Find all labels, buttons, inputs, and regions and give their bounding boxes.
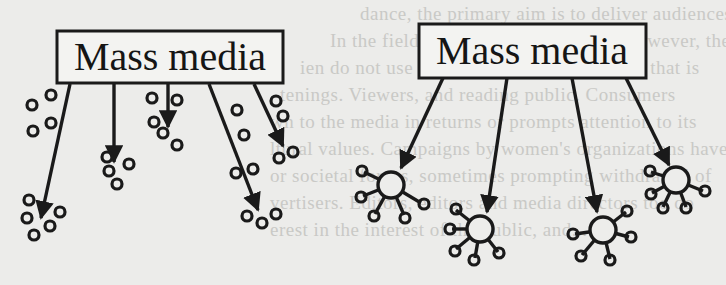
individual-circle [172,140,182,150]
individual-circle [271,96,281,106]
network-hub [445,204,504,265]
arrow [487,78,507,212]
individual-circle [112,179,122,189]
network-node [450,246,460,256]
network-node [681,203,691,213]
network-node [626,232,636,242]
individual-circle [102,152,112,162]
network-node [356,192,366,202]
individual-circle [22,213,32,223]
network-node [622,206,632,216]
arrow [626,78,669,165]
individual-circle [28,126,38,136]
individual-circle [242,211,252,221]
individual-circle [147,93,157,103]
individual-circle [46,90,56,100]
hub-circle [590,217,616,243]
network-node [645,166,655,176]
individual-circle [232,105,242,115]
diagram-canvas: Mass media [0,0,726,285]
arrow [41,84,70,218]
right-panel-network-model: Mass media [356,24,710,265]
network-node [700,186,710,196]
individual-circle [27,100,37,110]
left-panel-isolated-model: Mass media [22,31,298,240]
network-hub [568,206,636,265]
network-node [369,211,379,221]
network-node [445,224,455,234]
individual-circle [158,128,168,138]
individual-circle [55,207,65,217]
individual-circle [172,95,182,105]
individual-circle [271,209,281,219]
arrow [209,84,258,210]
individual-circle [45,221,55,231]
individual-circle [274,153,284,163]
individual-circle [278,111,288,121]
individual-circle [104,166,114,176]
mass-media-label-right: Mass media [436,28,628,73]
network-node [576,251,586,261]
network-node [469,255,479,265]
individual-circle [257,218,267,228]
network-node [646,189,656,199]
network-node [451,204,461,214]
individual-circle [288,147,298,157]
hub-circle [663,167,689,193]
individual-circle [248,164,258,174]
network-node [400,213,410,223]
network-node [605,255,615,265]
network-node [658,203,668,213]
individual-circle [46,118,56,128]
individual-circle [231,168,241,178]
individual-circle [24,195,34,205]
hub-circle [467,216,493,242]
individual-circle [29,230,39,240]
network-node [357,166,367,176]
network-node [494,248,504,258]
arrow [401,78,443,168]
individual-circle [239,130,249,140]
network-node [419,199,429,209]
network-node [568,229,578,239]
mass-media-label-left: Mass media [74,34,266,79]
network-hub [645,166,710,213]
network-hub [356,166,429,223]
hub-circle [378,172,404,198]
individual-circle [124,159,134,169]
individual-circle [149,117,159,127]
arrow [572,78,597,212]
